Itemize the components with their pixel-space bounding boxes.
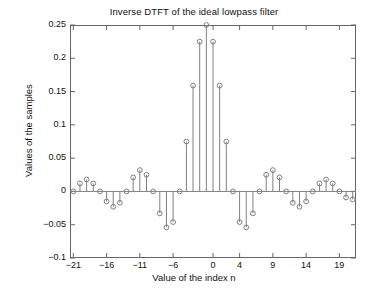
y-tick-label: 0.05	[26, 152, 66, 162]
y-tick-label: 0.1	[26, 119, 66, 129]
y-tick-label: 0.15	[26, 86, 66, 96]
y-tick-label: 0	[26, 185, 66, 195]
stem-series	[70, 23, 356, 230]
y-tick-label: 0.25	[26, 19, 66, 29]
x-tick-label: −6	[153, 260, 193, 270]
chart-canvas	[0, 0, 388, 295]
y-tick-label: −0.05	[26, 219, 66, 229]
y-tick-label: 0.2	[26, 52, 66, 62]
x-axis-label: Value of the index n	[0, 272, 388, 283]
x-tick-label: 19	[319, 260, 359, 270]
chart-figure: Inverse DTFT of the ideal lowpass filter…	[0, 0, 388, 295]
